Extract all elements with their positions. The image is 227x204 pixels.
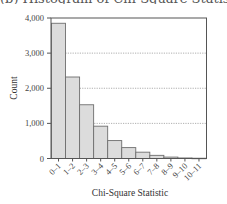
y-tick-label: 4,000	[25, 13, 44, 23]
histogram-bar	[108, 141, 122, 159]
y-tick-label: 0	[40, 154, 44, 164]
histogram-bar	[66, 77, 80, 158]
histogram-chart: 01,0002,0003,0004,0000–11–22–33–44–55–66…	[0, 0, 227, 204]
y-tick-label: 2,000	[25, 83, 44, 93]
x-axis-title: Chi-Square Statistic	[92, 188, 168, 198]
histogram-bar	[52, 23, 66, 158]
histogram-bar	[136, 152, 150, 158]
histogram-bar	[80, 105, 94, 159]
y-tick-label: 1,000	[25, 118, 44, 128]
histogram-bar	[94, 126, 108, 158]
y-axis-title: Count	[9, 76, 19, 100]
histogram-bar	[122, 148, 136, 159]
y-tick-label: 3,000	[25, 48, 44, 58]
